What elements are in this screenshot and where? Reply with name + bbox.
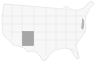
us-map-svg [0,0,104,68]
us-outline [2,1,94,61]
us-map [0,0,104,68]
state-new-mexico[interactable] [23,32,34,46]
